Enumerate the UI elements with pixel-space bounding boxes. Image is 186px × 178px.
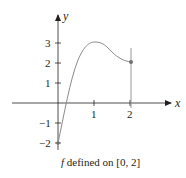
y-tick-label-1: 1 xyxy=(45,77,51,89)
x-tick-label-2: 2 xyxy=(127,108,133,120)
function-graph: x y 3 2 1 −1 −2 1 2 f defined on [0, 2] xyxy=(0,0,186,178)
x-tick-label-1: 1 xyxy=(91,108,97,120)
y-tick-label-3: 3 xyxy=(45,37,51,49)
y-tick-label-2: 2 xyxy=(45,57,51,69)
caption: f defined on [0, 2] xyxy=(61,156,140,168)
y-tick-label-neg2: −2 xyxy=(39,137,51,149)
y-tick-label-neg1: −1 xyxy=(39,117,51,129)
caption-text: defined on [0, 2] xyxy=(64,156,140,168)
function-curve xyxy=(58,42,131,143)
x-axis-label: x xyxy=(174,96,181,110)
endpoint-right-dot xyxy=(129,60,133,64)
endpoint-left-dot xyxy=(56,141,60,145)
y-axis-label: y xyxy=(62,9,69,23)
